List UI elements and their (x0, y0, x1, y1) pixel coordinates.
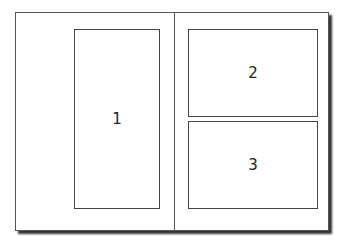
column-divider (174, 12, 175, 231)
panel-1: 1 (74, 29, 160, 209)
panel-3: 3 (188, 121, 318, 209)
panel-2: 2 (188, 29, 318, 117)
panel-label: 1 (112, 110, 122, 128)
panel-label: 2 (248, 64, 258, 82)
panel-label: 3 (248, 156, 258, 174)
